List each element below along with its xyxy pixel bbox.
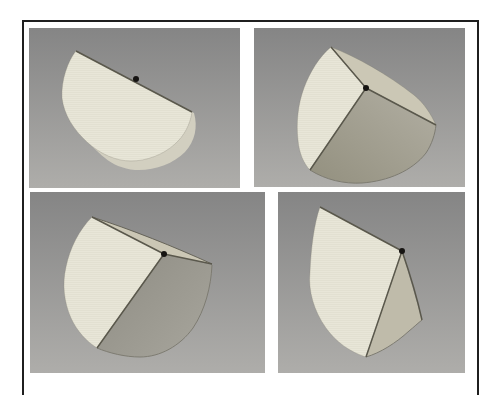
vertex-marker-dot <box>161 251 167 257</box>
render-partially-folded-disc <box>30 192 265 373</box>
vertex-marker-dot <box>399 248 405 254</box>
vertex-marker-dot <box>133 76 139 82</box>
render-narrow-folded-cone <box>278 192 465 373</box>
scanned-figure-page <box>0 0 501 395</box>
figure-frame-right-border <box>477 20 479 395</box>
render-folded-half-disc <box>29 28 240 188</box>
figure-frame-top-border <box>22 20 479 22</box>
figure-frame-left-border <box>22 20 24 395</box>
render-opened-cone <box>254 28 465 187</box>
vertex-marker-dot <box>363 85 369 91</box>
